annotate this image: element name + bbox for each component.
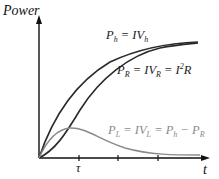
label-p-h: Ph = IVh xyxy=(106,29,148,44)
label-p-l: PL = IVL = Ph − PR xyxy=(108,124,205,139)
curve-p-h xyxy=(39,42,198,158)
power-chart xyxy=(0,0,219,179)
y-axis-label: Power xyxy=(3,4,40,18)
tick-label-tau: τ xyxy=(76,162,80,174)
label-p-r: PR = IVR = I2R xyxy=(117,63,191,79)
x-axis-arrow-icon xyxy=(201,155,210,161)
x-axis-label: t xyxy=(203,163,207,177)
curve-p-r xyxy=(39,43,198,158)
